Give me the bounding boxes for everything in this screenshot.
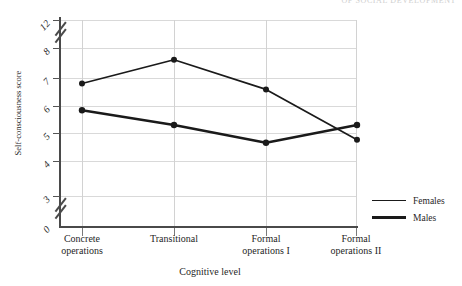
- data-point-males-4: [354, 122, 360, 128]
- data-point-males-3: [263, 140, 269, 146]
- legend-label-males: Males: [413, 213, 436, 223]
- series-layer: [0, 0, 462, 286]
- legend-label-females: Females: [413, 196, 445, 206]
- series-markers-males: [79, 107, 360, 146]
- legend-item-females: Females: [372, 192, 445, 209]
- series-line-males: [82, 110, 357, 143]
- chart-legend: Females Males: [372, 192, 445, 226]
- data-point-males-1: [79, 107, 85, 113]
- legend-swatch-males: [372, 216, 406, 219]
- legend-item-males: Males: [372, 209, 445, 226]
- line-chart-figure: OF SOCIAL DEVELOPMENT 12 8 7 6 5 4: [0, 0, 462, 286]
- data-point-females-3: [263, 86, 269, 92]
- series-markers-females: [79, 57, 360, 143]
- data-point-females-4: [354, 137, 360, 143]
- data-point-males-2: [171, 122, 177, 128]
- legend-swatch-females: [372, 200, 406, 202]
- data-point-females-2: [171, 57, 177, 63]
- series-line-females: [82, 60, 357, 140]
- data-point-females-1: [79, 81, 85, 87]
